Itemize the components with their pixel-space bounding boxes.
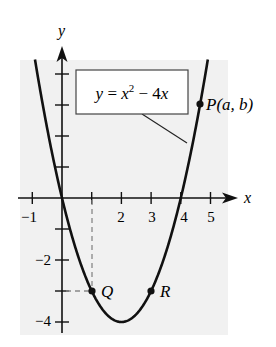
x-tick-label-5: 5 [207, 209, 215, 225]
point-q-label: Q [101, 282, 113, 301]
graph-canvas: y = x2 − 4x P(a, b) Q R y x −1 2 3 4 5 −… [0, 0, 276, 347]
y-tick-label-neg2: −2 [35, 252, 51, 268]
x-tick-label-3: 3 [148, 209, 156, 225]
x-axis-label: x [243, 189, 251, 206]
x-tick-label-2: 2 [117, 209, 125, 225]
x-tick-label-4: 4 [180, 209, 188, 225]
y-axis-label: y [56, 22, 66, 40]
point-p-label: P(a, b) [205, 95, 254, 114]
point-r-label: R [159, 282, 171, 301]
x-tick-label-neg1: −1 [21, 209, 37, 225]
parabola-figure: y = x2 − 4x P(a, b) Q R y x −1 2 3 4 5 −… [0, 0, 276, 347]
y-tick-label-neg4: −4 [35, 313, 51, 329]
